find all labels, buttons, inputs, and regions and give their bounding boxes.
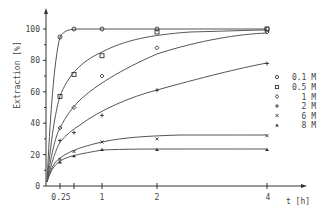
curve-0.1M	[47, 29, 267, 182]
x-axis-arrow-icon	[301, 184, 307, 188]
svg-text:0: 0	[35, 182, 40, 191]
extraction-chart: 0 20 40 60 80 100 Extraction [%] 0.25 1 …	[0, 0, 320, 215]
legend-plus-icon	[275, 104, 279, 108]
svg-text:80: 80	[30, 56, 40, 65]
curve-0.5M	[47, 30, 267, 182]
svg-text:2: 2	[155, 193, 160, 202]
x-axis-label: t [h]	[286, 197, 310, 206]
svg-text:40: 40	[30, 119, 40, 128]
curve-1M	[47, 33, 267, 182]
legend-square-icon	[275, 85, 278, 88]
svg-text:60: 60	[30, 88, 40, 97]
legend-diamond-icon	[275, 95, 278, 99]
markers-2M	[58, 62, 269, 143]
y-axis-arrow-icon	[44, 8, 48, 14]
legend-cross-icon	[276, 114, 279, 117]
svg-text:1 M: 1 M	[302, 93, 317, 102]
legend-circle-icon	[275, 75, 278, 78]
x-tick-labels: 0.25 1 2 4	[51, 193, 270, 202]
curve-2M	[47, 63, 267, 182]
svg-text:2 M: 2 M	[302, 102, 317, 111]
markers-8M	[58, 148, 269, 164]
svg-text:20: 20	[30, 151, 40, 160]
svg-text:0.5 M: 0.5 M	[292, 83, 316, 92]
svg-text:1: 1	[100, 193, 105, 202]
svg-text:4: 4	[266, 193, 271, 202]
svg-text:8 M: 8 M	[302, 121, 317, 130]
legend: 0.1 M 0.5 M 1 M 2 M 6 M 8 M	[275, 73, 316, 130]
svg-text:0.1 M: 0.1 M	[292, 73, 316, 82]
legend-triangle-icon	[275, 124, 279, 127]
curve-6M	[47, 135, 267, 182]
markers-1M	[58, 30, 269, 130]
curve-8M	[47, 149, 267, 182]
markers-6M	[59, 134, 269, 161]
y-axis-label: Extraction [%]	[13, 41, 22, 108]
y-tick-labels: 0 20 40 60 80 100	[26, 25, 41, 191]
svg-text:0.25: 0.25	[51, 193, 70, 202]
svg-text:100: 100	[26, 25, 41, 34]
svg-text:6 M: 6 M	[302, 112, 317, 121]
